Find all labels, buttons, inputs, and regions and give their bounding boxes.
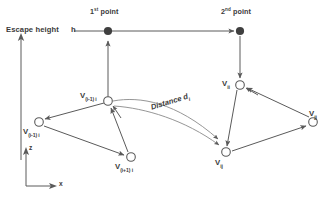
arrow-into-vii [246, 88, 258, 95]
node-v-i-plus-1[interactable] [127, 153, 136, 162]
node-label-v-i-minus-1: V(i-1) i [23, 128, 40, 138]
node-label-v-i-plus-1-subscript: (i+1) i [120, 167, 133, 173]
node-first-point[interactable] [104, 27, 112, 35]
node-label-v-ij-subscript: ij [220, 163, 223, 169]
node-v-i-minus-1[interactable] [35, 118, 44, 127]
node-label-v-ij: Vij [215, 159, 223, 169]
axis-label-x: x [59, 181, 63, 188]
node-label-v-ii-subscript: ii [227, 84, 230, 90]
escape-height-label: Escape height [6, 26, 59, 34]
coordinate-axes [23, 147, 57, 189]
node-v-ij[interactable] [222, 148, 231, 157]
node-v-ii[interactable] [236, 81, 245, 90]
node-v-i[interactable] [104, 97, 113, 106]
second-point-word: point [231, 7, 251, 16]
node-label-v-i: V(i-1) i [80, 92, 97, 102]
escape-height-symbol: h [71, 26, 76, 34]
figure-canvas: Escape height h 1st point 2nd point V(i-… [0, 0, 336, 204]
first-point-label: 1st point [90, 8, 119, 16]
first-point-word: point [98, 7, 118, 16]
node-second-point[interactable] [236, 27, 244, 35]
axis-label-z: z [29, 145, 32, 152]
node-label-v-i-plus-1: V(i+1) i [115, 163, 133, 173]
edge-vjj-to-vii [247, 88, 309, 117]
edge-vij-to-vjj [232, 126, 306, 151]
escape-height-axis [18, 33, 24, 160]
edge-vim1-to-vip1 [44, 126, 124, 155]
node-label-v-ii: Vii [222, 80, 230, 90]
node-label-v-i-subscript: (i-1) i [85, 96, 96, 102]
edge-vii-to-vij [227, 90, 237, 146]
distance-connector-lower [114, 106, 219, 145]
edge-vi-to-vim1 [45, 103, 104, 119]
edge-vip1-to-vi [111, 108, 128, 152]
second-point-label: 2nd point [221, 8, 251, 16]
node-label-v-i-minus-1-subscript: (i-1) i [28, 132, 39, 138]
node-label-v-jj-subscript: jj [314, 114, 317, 120]
node-label-v-jj: Vjj [309, 110, 317, 120]
